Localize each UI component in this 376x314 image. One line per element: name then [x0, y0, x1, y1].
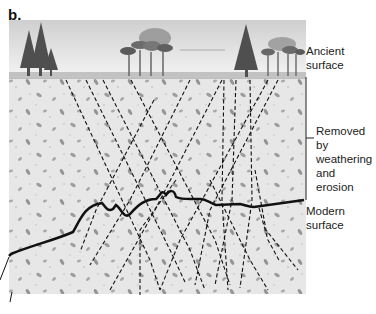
removed-bracket: [306, 77, 314, 200]
label-ancient-surface: Ancient surface: [306, 44, 344, 72]
label-removed-by-erosion: Removed by weathering and erosion: [316, 124, 376, 194]
label-modern-surface: Modern surface: [306, 204, 345, 232]
